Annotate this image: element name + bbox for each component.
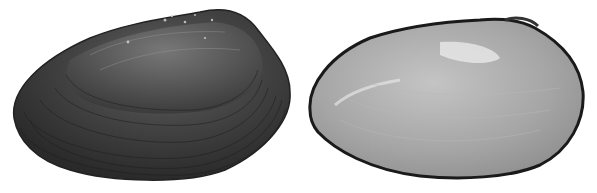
mussel-shells-photo [0,0,597,193]
shell-interior [310,18,583,178]
shell-exterior [14,10,290,180]
